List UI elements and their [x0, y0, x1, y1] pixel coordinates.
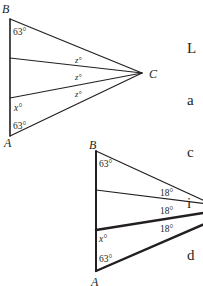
angle-b-label: 63°: [99, 159, 113, 169]
angle-x-label: x°: [98, 234, 107, 244]
vertex-a-label: A: [3, 136, 12, 150]
vertex-b-label: B: [2, 2, 10, 16]
text-line: c: [187, 144, 203, 161]
text-line: d: [187, 247, 203, 264]
apex-angle-label-1: 18°: [160, 188, 174, 198]
text-line: i: [187, 195, 203, 212]
apex-angle-label-1: z°: [74, 55, 82, 65]
angle-b-label: 63°: [13, 27, 27, 37]
apex-angle-label-3: 18°: [160, 224, 174, 234]
angle-x-label: x°: [13, 103, 22, 113]
angle-a-label: 63°: [99, 254, 113, 264]
apex-angle-label-3: z°: [74, 89, 82, 99]
vertex-c-label: C: [149, 67, 158, 81]
text-line: a: [187, 92, 203, 109]
bottom-triangle-labels: B A 63° 63° x° 18° 18° 18°: [89, 138, 174, 286]
cropped-paragraph-text: L a c i d s t a f: [187, 6, 203, 286]
angle-a-label: 63°: [13, 121, 27, 131]
vertex-b-label: B: [89, 138, 97, 152]
geometry-figures: B A C 63° 63° x° z° z° z° B A 63° 63° x°…: [0, 0, 203, 286]
vertex-a-label: A: [90, 275, 99, 286]
text-line: L: [187, 40, 203, 57]
side-ac: [10, 73, 142, 136]
apex-angle-label-2: z°: [74, 72, 82, 82]
apex-angle-label-2: 18°: [160, 206, 174, 216]
